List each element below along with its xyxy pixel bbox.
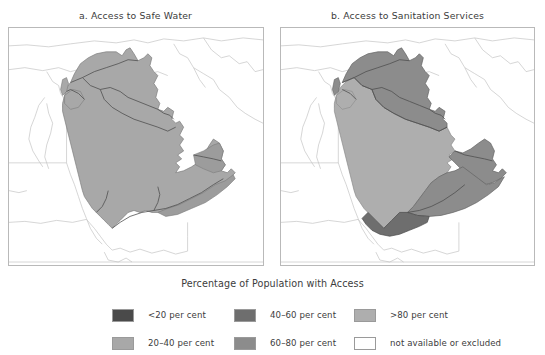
figure-two-panel-maps: a. Access to Safe Water b. Access to San…	[0, 0, 545, 355]
legend-swatch-40-60	[234, 309, 256, 322]
legend-swatch-lt20	[112, 309, 134, 322]
legend-row-1: <20 per cent 40–60 per cent >80 per cent	[112, 301, 532, 329]
legend-title: Percentage of Population with Access	[0, 278, 545, 289]
legend-item-not-available: not available or excluded	[354, 337, 529, 350]
legend-swatch-60-80	[234, 337, 256, 350]
legend-label-20-40: 20–40 per cent	[148, 338, 214, 348]
legend-item-gt80: >80 per cent	[354, 309, 529, 322]
map-b-svg	[281, 28, 534, 265]
legend-item-lt20: <20 per cent	[112, 309, 234, 322]
panel-a-title: a. Access to Safe Water	[8, 10, 263, 21]
legend-label-gt80: >80 per cent	[390, 310, 448, 320]
legend: Percentage of Population with Access <20…	[0, 274, 545, 355]
legend-swatch-20-40	[112, 337, 134, 350]
legend-row-2: 20–40 per cent 60–80 per cent not availa…	[112, 329, 532, 355]
map-a-choropleth	[61, 48, 236, 228]
map-b-choropleth	[332, 48, 506, 236]
legend-label-not-available: not available or excluded	[390, 338, 501, 348]
legend-item-20-40: 20–40 per cent	[112, 337, 234, 350]
map-panel-sanitation	[280, 27, 535, 266]
legend-swatch-not-available	[354, 337, 376, 350]
legend-item-60-80: 60–80 per cent	[234, 337, 354, 350]
panel-b-title: b. Access to Sanitation Services	[281, 10, 534, 21]
legend-label-60-80: 60–80 per cent	[270, 338, 336, 348]
legend-grid: <20 per cent 40–60 per cent >80 per cent…	[112, 301, 532, 355]
legend-label-lt20: <20 per cent	[148, 310, 206, 320]
map-panel-safe-water	[8, 27, 264, 266]
legend-item-40-60: 40–60 per cent	[234, 309, 354, 322]
legend-label-40-60: 40–60 per cent	[270, 310, 336, 320]
legend-swatch-gt80	[354, 309, 376, 322]
map-a-svg	[9, 28, 263, 265]
